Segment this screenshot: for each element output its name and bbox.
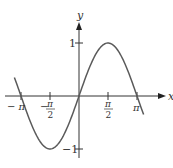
x-tick-label-neg-half-pi: − π 2 bbox=[40, 99, 55, 120]
x-tick-label-half-pi: π 2 bbox=[104, 99, 113, 120]
svg-text:π: π bbox=[46, 99, 54, 109]
svg-text:2: 2 bbox=[106, 110, 112, 120]
y-axis-arrow-icon bbox=[76, 22, 82, 30]
x-tick-label-pi: π bbox=[132, 102, 140, 113]
x-tick-label-neg-pi: − π bbox=[7, 101, 26, 112]
x-axis-label: x bbox=[168, 90, 173, 103]
x-axis-arrow-icon bbox=[158, 93, 166, 99]
svg-text:π: π bbox=[104, 99, 112, 109]
y-axis-label: y bbox=[76, 9, 84, 22]
y-tick-label-1: 1 bbox=[69, 37, 76, 50]
y-tick-label-neg1: −1 bbox=[62, 143, 78, 156]
svg-text:2: 2 bbox=[48, 110, 54, 120]
sine-chart: x y 1 −1 − π − π 2 π 2 π bbox=[0, 0, 173, 168]
